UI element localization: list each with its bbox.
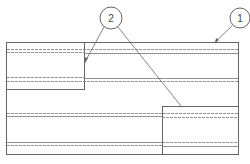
outer-panel [7, 43, 239, 155]
callout-number-1: 1 [237, 13, 243, 24]
leader-line-2b [118, 27, 181, 106]
callout-number-2: 2 [108, 13, 114, 24]
layer-lines [7, 50, 238, 147]
callout-2: 2 [84, 7, 181, 106]
leader-line-2a [85, 27, 104, 62]
diagram-canvas: 2 1 [0, 0, 250, 164]
callout-1: 1 [215, 8, 250, 43]
